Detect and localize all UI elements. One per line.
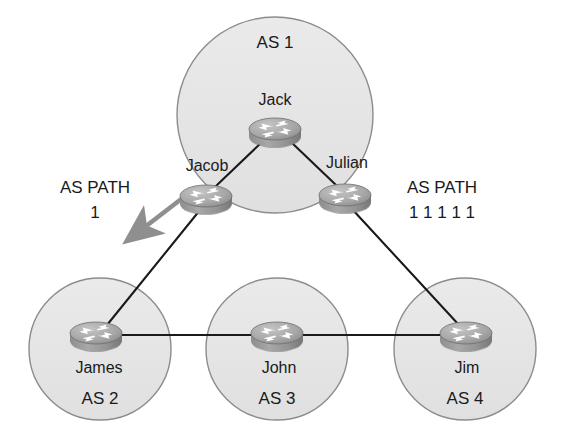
as-domain-label: AS 1 [257,33,294,52]
link-julian-jim [352,209,459,325]
as-path-value: 1 [90,203,99,222]
as-domain-label: AS 3 [259,389,296,408]
as-path-annotation-left: AS PATH 1 [60,178,130,222]
router-icon [251,322,303,352]
diagram-canvas: AS 1 AS 2 AS 3 AS 4 [0,0,565,441]
as-domain-as1: AS 1 [177,17,373,213]
router-label: James [75,359,122,376]
router-icon [319,184,371,214]
router-icon [440,322,492,352]
router-label: Jim [455,359,480,376]
router-label: John [262,359,297,376]
as-path-value: 1 1 1 1 1 [409,203,475,222]
as-domain-label: AS 4 [447,389,484,408]
router-label: Julian [326,154,368,171]
router-label: Jack [259,91,293,108]
as-domain-label: AS 2 [82,389,119,408]
router-icon [180,185,232,215]
as-path-annotation-right: AS PATH 1 1 1 1 1 [407,178,477,222]
router-label: Jacob [186,157,229,174]
as-path-title: AS PATH [60,178,130,197]
as-path-title: AS PATH [407,178,477,197]
network-diagram: AS 1 AS 2 AS 3 AS 4 [0,0,565,441]
router-icon [70,322,122,352]
router-icon [249,118,301,148]
